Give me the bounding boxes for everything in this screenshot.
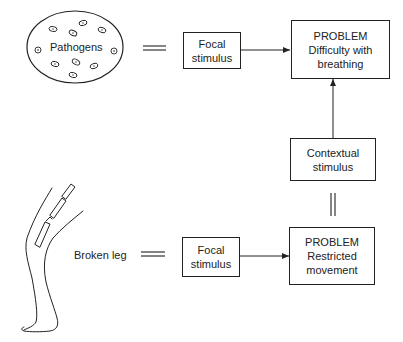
top-problem-box: PROBLEM Difficulty with breathing — [291, 20, 390, 79]
box-line: Focal — [199, 37, 226, 51]
box-line: breathing — [318, 57, 364, 71]
bottom-focal-stimulus-box: Focal stimulus — [182, 237, 240, 277]
contextual-stimulus-box: Contextual stimulus — [290, 138, 376, 181]
bottom-problem-box: PROBLEM Restricted movement — [289, 227, 375, 285]
box-line: Contextual — [307, 146, 360, 160]
box-line: Focal — [198, 243, 225, 257]
broken-leg-label: Broken leg — [74, 248, 127, 262]
top-focal-stimulus-box: Focal stimulus — [183, 32, 241, 69]
equivalence-sign-top — [143, 46, 166, 50]
box-line: Difficulty with — [309, 43, 373, 57]
box-line: PROBLEM — [314, 29, 368, 43]
equivalence-sign-bottom — [141, 252, 165, 256]
equivalence-sign-vertical — [331, 193, 335, 216]
box-line: movement — [306, 263, 357, 277]
box-line: stimulus — [313, 160, 353, 174]
pathogens-label: Pathogens — [50, 40, 103, 54]
box-line: Restricted — [307, 249, 357, 263]
box-line: stimulus — [191, 257, 231, 271]
box-line: stimulus — [192, 51, 232, 65]
box-line: PROBLEM — [305, 235, 359, 249]
